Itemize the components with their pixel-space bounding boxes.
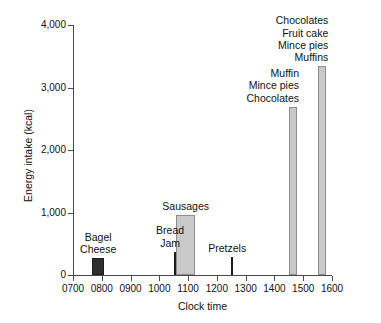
bar-bagel-cheese	[92, 258, 104, 275]
x-axis-title: Clock time	[73, 300, 332, 312]
bar-label-muffin-mince-pies-chocolates: MuffinMince piesChocolates	[0, 67, 299, 104]
bar-label-line: Muffin	[0, 67, 299, 79]
bar-label-line: Chocolates	[0, 14, 328, 26]
x-axis-line	[73, 275, 332, 276]
y-tick-mark	[68, 213, 73, 214]
x-tick-mark	[303, 276, 304, 281]
x-tick-mark	[102, 276, 103, 281]
x-tick-mark	[131, 276, 132, 281]
bar-label-sausages: Sausages	[141, 200, 231, 212]
bar-label-line: Sausages	[141, 200, 231, 212]
bar-muffin-mince-pies-chocolates	[289, 107, 297, 275]
x-tick-mark	[274, 276, 275, 281]
bar-label-line: Muffins	[0, 51, 328, 63]
bar-label-pretzels: Pretzels	[182, 242, 272, 254]
bar-label-line: Pretzels	[182, 242, 272, 254]
y-tick-label-text: 0	[22, 270, 66, 280]
bar-label-line: Mince pies	[0, 79, 299, 91]
bar-chocolates-fruit-cake-mince-pies-muffins	[318, 66, 327, 275]
x-tick-mark	[217, 276, 218, 281]
y-axis-title: Energy intake (kcal)	[23, 76, 34, 236]
x-tick-mark	[73, 276, 74, 281]
bar-label-line: Mince pies	[0, 39, 328, 51]
bar-label-line: Bread	[125, 224, 215, 236]
x-tick-mark	[246, 276, 247, 281]
y-tick-label: 0	[18, 270, 66, 280]
bar-pretzels	[231, 257, 233, 275]
x-tick-label: 1600	[312, 283, 352, 294]
bar-label-line: Fruit cake	[0, 27, 328, 39]
x-tick-mark	[159, 276, 160, 281]
y-tick-mark	[68, 150, 73, 151]
bar-label-line: Chocolates	[0, 92, 299, 104]
x-tick-mark	[332, 276, 333, 281]
x-tick-mark	[188, 276, 189, 281]
energy-intake-bar-chart: 01,0002,0003,0004,000 070008000900100011…	[0, 0, 381, 323]
bar-label-chocolates-fruit-cake-mince-pies-muffins: ChocolatesFruit cakeMince piesMuffins	[0, 14, 328, 63]
